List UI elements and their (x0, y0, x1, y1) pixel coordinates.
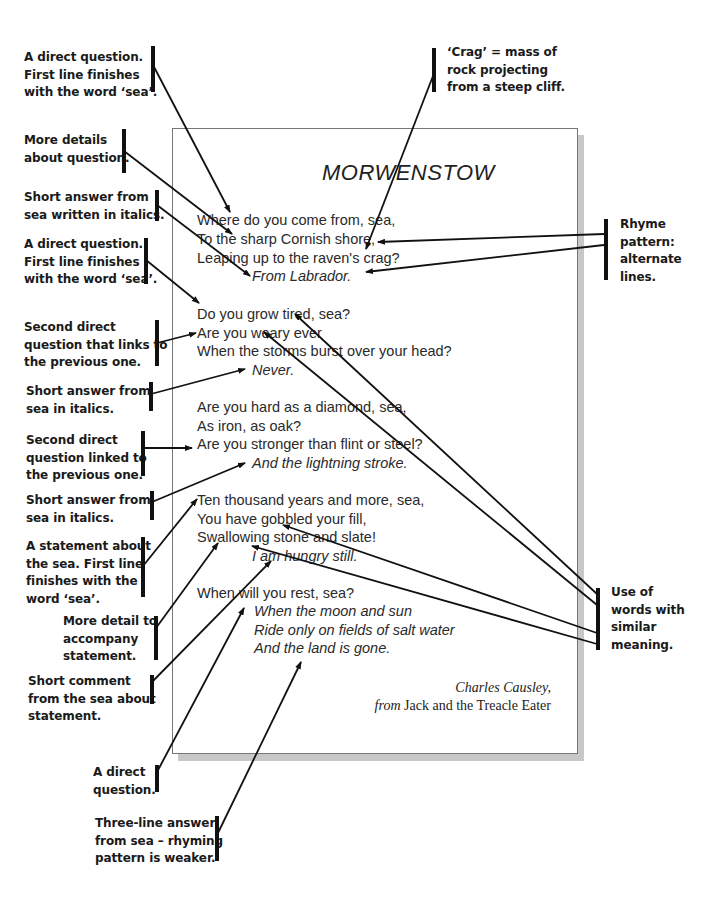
connector-arrows (0, 0, 709, 898)
